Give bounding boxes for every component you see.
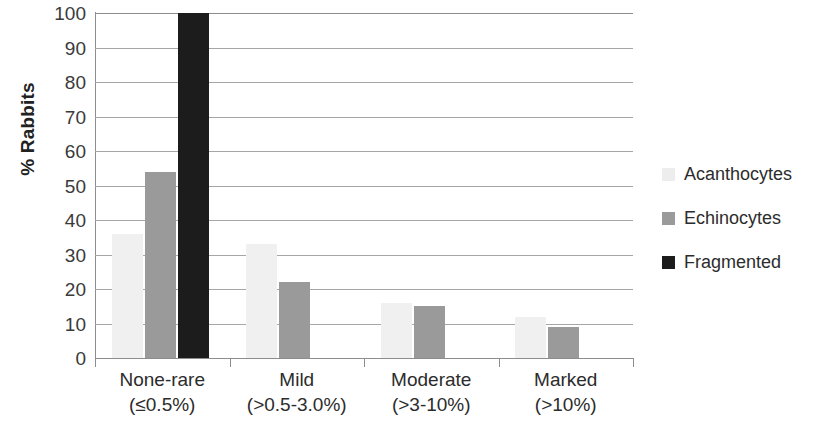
x-axis-tick — [633, 358, 634, 367]
bar-marked-acanthocytes — [515, 317, 546, 358]
chart-legend: AcanthocytesEchinocytesFragmented — [662, 152, 820, 284]
category-range: (>10%) — [499, 392, 634, 417]
legend-label: Acanthocytes — [684, 164, 792, 185]
y-axis-tick-label: 50 — [34, 176, 86, 195]
y-axis-tick-label: 70 — [34, 107, 86, 126]
legend-label: Echinocytes — [684, 208, 781, 229]
legend-item-fragmented[interactable]: Fragmented — [662, 240, 820, 284]
x-axis-tick — [364, 358, 365, 367]
bar-mild-echinocytes — [279, 282, 310, 358]
y-axis-tick-label: 40 — [34, 211, 86, 230]
category-name: Mild — [279, 369, 314, 390]
bars-layer — [95, 13, 633, 358]
y-axis-tick-label: 30 — [34, 245, 86, 264]
category-range: (≤0.5%) — [95, 392, 230, 417]
bar-none-rare-echinocytes — [145, 172, 176, 358]
y-axis-tick-label: 10 — [34, 314, 86, 333]
y-axis-tick-label: 100 — [34, 4, 86, 23]
x-axis-category-label: Moderate(>3-10%) — [364, 367, 499, 418]
x-axis-tick — [95, 358, 96, 367]
plot-area — [95, 13, 633, 358]
legend-item-echinocytes[interactable]: Echinocytes — [662, 196, 820, 240]
bar-none-rare-fragmented — [178, 13, 209, 358]
bar-moderate-acanthocytes — [381, 303, 412, 358]
x-axis-category-labels: None-rare(≤0.5%)Mild(>0.5-3.0%)Moderate(… — [95, 367, 633, 429]
bar-none-rare-acanthocytes — [112, 234, 143, 358]
x-axis-category-label: Mild(>0.5-3.0%) — [230, 367, 365, 418]
category-name: None-rare — [119, 369, 205, 390]
x-axis-tick — [499, 358, 500, 367]
x-axis-tick — [230, 358, 231, 367]
bar-marked-echinocytes — [548, 327, 579, 358]
legend-swatch-icon — [662, 256, 675, 269]
y-axis-tick-label: 0 — [34, 349, 86, 368]
bar-chart: % Rabbits 1009080706050403020100 None-ra… — [0, 0, 821, 433]
legend-swatch-icon — [662, 168, 675, 181]
y-axis-tick-label: 90 — [34, 38, 86, 57]
category-range: (>3-10%) — [364, 392, 499, 417]
legend-label: Fragmented — [684, 252, 781, 273]
category-range: (>0.5-3.0%) — [230, 392, 365, 417]
y-axis-tick-label: 80 — [34, 73, 86, 92]
y-axis-tick-label: 60 — [34, 142, 86, 161]
y-axis-tick-label: 20 — [34, 280, 86, 299]
category-name: Marked — [534, 369, 597, 390]
x-axis-category-label: None-rare(≤0.5%) — [95, 367, 230, 418]
y-axis-tick-labels: 1009080706050403020100 — [34, 13, 86, 358]
legend-swatch-icon — [662, 212, 675, 225]
bar-mild-acanthocytes — [246, 244, 277, 358]
x-axis-category-label: Marked(>10%) — [499, 367, 634, 418]
legend-item-acanthocytes[interactable]: Acanthocytes — [662, 152, 820, 196]
bar-moderate-echinocytes — [414, 306, 445, 358]
category-name: Moderate — [391, 369, 471, 390]
